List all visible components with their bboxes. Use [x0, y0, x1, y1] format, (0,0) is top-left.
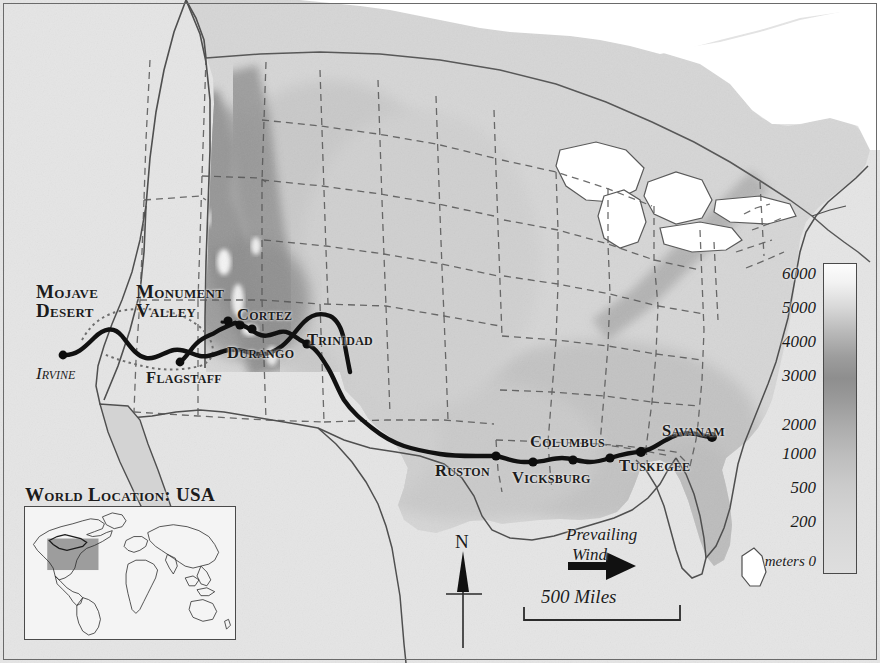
legend-tick-200: 200	[742, 512, 816, 532]
elevation-map: Mojave Desert Monument Valley Irvine Fla…	[0, 0, 880, 663]
legend-tick-500: 500	[742, 478, 816, 498]
legend-tick-1000: 1000	[742, 444, 816, 464]
legend-unit-label: meters 0	[724, 553, 816, 570]
elevation-colorbar	[823, 263, 857, 574]
wind-label-line1: Prevailing	[566, 525, 637, 545]
legend-tick-3000: 3000	[742, 366, 816, 386]
legend-tick-5000: 5000	[742, 298, 816, 318]
world-map	[25, 507, 235, 639]
world-location-inset	[24, 506, 236, 640]
legend-tick-2000: 2000	[742, 415, 816, 435]
legend-tick-4000: 4000	[742, 332, 816, 352]
usa-highlight	[47, 539, 98, 571]
legend-tick-6000: 6000	[742, 264, 816, 284]
wind-label-line2: Wind	[572, 545, 607, 565]
north-label: N	[455, 531, 469, 553]
scale-label: 500 Miles	[541, 586, 616, 608]
north-arrow	[446, 551, 482, 648]
